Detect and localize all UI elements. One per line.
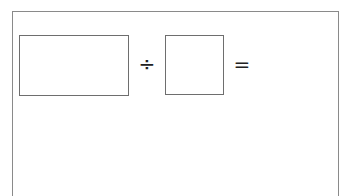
divide-sign: ÷: [138, 54, 156, 74]
dividend-answer-box[interactable]: [19, 35, 129, 96]
equals-sign: =: [233, 54, 251, 74]
divisor-answer-box[interactable]: [165, 35, 224, 95]
